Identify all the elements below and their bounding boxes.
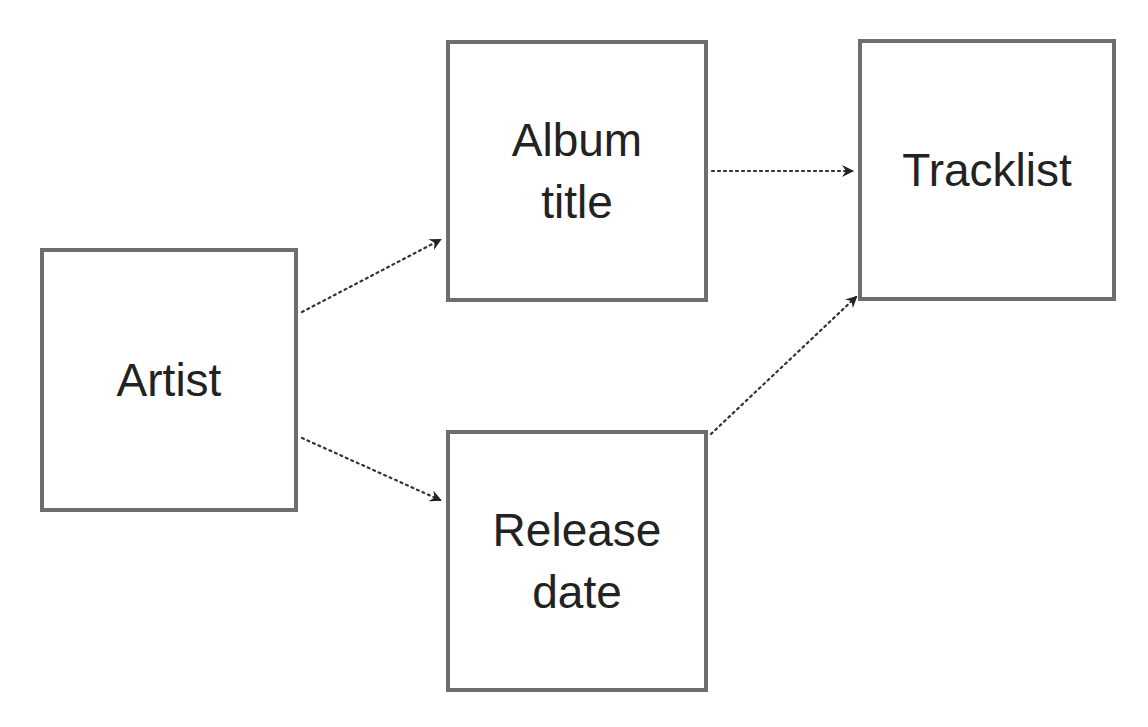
node-tracklist-label: Tracklist xyxy=(902,139,1072,201)
node-tracklist: Tracklist xyxy=(858,39,1116,301)
node-artist-label: Artist xyxy=(117,349,222,411)
edge-artist-to-album-title xyxy=(302,240,440,312)
node-album-title: Album title xyxy=(446,40,708,302)
diagram-canvas: Artist Album title Release date Tracklis… xyxy=(0,0,1148,727)
node-artist: Artist xyxy=(40,248,298,512)
edge-release-date-to-tracklist xyxy=(711,297,856,434)
node-release-date: Release date xyxy=(446,430,708,692)
edge-artist-to-release-date xyxy=(302,438,440,500)
node-album-title-label: Album title xyxy=(512,109,642,233)
node-release-date-label: Release date xyxy=(493,499,662,623)
